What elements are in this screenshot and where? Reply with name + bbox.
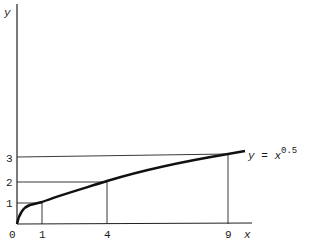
x-axis-label: x <box>243 229 251 241</box>
y-tick-1: 1 <box>6 198 13 210</box>
equation-exponent: 0.5 <box>281 146 297 156</box>
y-tick-3: 3 <box>6 153 13 165</box>
x-tick-0: 0 <box>9 229 16 241</box>
x-tick-4: 4 <box>104 229 111 241</box>
equation-label: y = x0.5 <box>247 146 297 162</box>
sqrt-chart: y x 0 1 4 9 1 2 3 y = x0.5 <box>0 0 310 250</box>
x-axis <box>17 223 252 224</box>
equation-lhs: y = x <box>247 150 281 162</box>
y-axis-label: y <box>3 7 11 19</box>
x-tick-1: 1 <box>39 229 46 241</box>
y-tick-2: 2 <box>6 177 13 189</box>
reference-lines <box>17 154 228 224</box>
x-tick-9: 9 <box>225 229 232 241</box>
curve-sqrt <box>17 151 245 224</box>
